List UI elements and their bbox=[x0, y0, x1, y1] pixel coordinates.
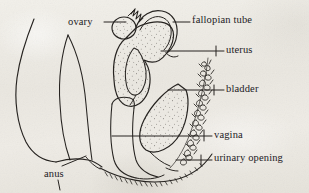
tube-isthmus bbox=[166, 53, 178, 57]
label-anus: anus bbox=[44, 169, 64, 180]
abdominal-wall-outline bbox=[16, 19, 56, 162]
rectum-outline-right bbox=[68, 35, 92, 160]
label-fallopian-tube: fallopian tube bbox=[192, 15, 252, 26]
label-ovary: ovary bbox=[68, 17, 93, 28]
vagina-lower-outline bbox=[136, 175, 164, 179]
anus-leader bbox=[62, 156, 86, 166]
label-urinary-opening: urinary opening bbox=[214, 153, 283, 164]
figure-canvas: ovary fallopian tube uterus bladder vagi… bbox=[0, 0, 309, 193]
anus-tick bbox=[58, 180, 60, 190]
label-bladder: bladder bbox=[226, 84, 259, 95]
anus-fold bbox=[86, 157, 100, 169]
label-vagina: vagina bbox=[214, 130, 243, 141]
urinary-opening-mark bbox=[166, 168, 178, 171]
urethra-outline bbox=[150, 152, 170, 166]
anatomy-drawing bbox=[0, 0, 309, 193]
label-uterus: uterus bbox=[226, 45, 253, 56]
vagina-wall-posterior bbox=[111, 104, 136, 178]
rectum-outline-left bbox=[59, 35, 70, 160]
